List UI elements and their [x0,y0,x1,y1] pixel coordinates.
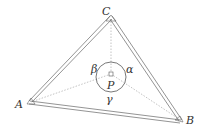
side-cb-inner [110,19,179,121]
label-p: P [106,79,115,92]
triangle-sides [29,16,182,123]
label-beta: β [90,63,97,76]
dashed-segments [31,21,179,119]
triangle-diagram: C A B P β α γ [0,0,204,138]
label-c: C [102,5,111,18]
label-b: B [185,114,194,127]
label-a: A [14,98,23,111]
label-gamma: γ [106,93,113,106]
label-alpha: α [126,63,134,76]
side-ac-outer [29,16,110,101]
point-p-marker [109,72,113,76]
side-ac-inner [32,19,112,102]
side-ab-outer [29,104,180,123]
diagram-canvas: C A B P β α γ [0,0,204,138]
